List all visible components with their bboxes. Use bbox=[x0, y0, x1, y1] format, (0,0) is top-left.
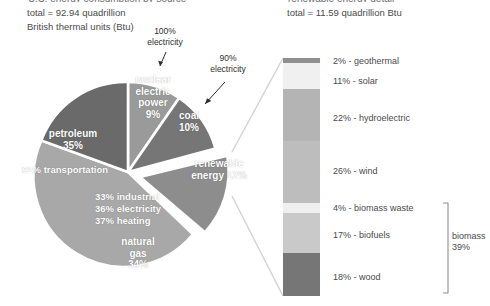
nuclear-callout-line1: 100% bbox=[133, 26, 197, 37]
pie-label-petroleum-l1: petroleum bbox=[28, 128, 118, 140]
bar-label-wind: 26% - wind bbox=[333, 166, 378, 177]
pie-label-natural-gas: natural gas 34% bbox=[104, 236, 172, 271]
pie-label-petroleum-l2: 35% bbox=[28, 140, 118, 152]
pie-label-coal-l1: coal bbox=[165, 110, 213, 122]
nuclear-callout-line2: electricity bbox=[133, 37, 197, 48]
bar-label-biofuels: 17% - biofuels bbox=[333, 230, 390, 241]
pie-label-nuclear-l3: power bbox=[122, 97, 184, 109]
bar-label-hydroelectric: 22% - hydroelectric bbox=[333, 113, 410, 124]
bar-label-solar: 11% - solar bbox=[333, 76, 378, 87]
bar-segment-solar[interactable] bbox=[283, 63, 320, 89]
coal-callout-line1: 90% bbox=[196, 53, 260, 64]
pie-label-gas-l1: natural bbox=[104, 236, 172, 248]
bar-segment-wood[interactable] bbox=[283, 253, 320, 296]
gas-subnote-l1: 33% industrial bbox=[95, 191, 161, 203]
connector-line-bottom bbox=[232, 196, 283, 296]
gas-subnote-l3: 37% heating bbox=[95, 215, 161, 227]
chart-figure: U.S. energy consumption by source renewa… bbox=[0, 0, 490, 306]
bar-segment-biofuels[interactable] bbox=[283, 213, 320, 253]
pie-label-nuclear-l1: nuclear bbox=[122, 74, 184, 86]
gas-subnote-l2: 36% electricity bbox=[95, 203, 161, 215]
nuclear-callout-label: 100% electricity bbox=[133, 26, 197, 47]
pie-label-renewable-l1: renewable bbox=[177, 158, 261, 170]
biomass-bracket-l2: 39% bbox=[452, 242, 486, 253]
biomass-bracket bbox=[443, 203, 448, 293]
bar-segment-wind[interactable] bbox=[283, 141, 320, 203]
bar-segment-biomass-waste[interactable] bbox=[283, 203, 320, 213]
pie-label-gas-l2: gas bbox=[104, 248, 172, 260]
coal-callout-arrow bbox=[205, 82, 225, 104]
pie-label-renewable-l2: energy 12% bbox=[177, 170, 261, 182]
coal-callout-label: 90% electricity bbox=[196, 53, 260, 74]
nuclear-callout-arrow bbox=[158, 52, 166, 66]
pie-label-renewable: renewable energy 12% bbox=[177, 158, 261, 181]
pie-label-coal: coal 10% bbox=[165, 110, 213, 133]
bar-label-biomass-waste: 4% - biomass waste bbox=[333, 203, 414, 214]
pie-label-petroleum: petroleum 35% bbox=[28, 128, 118, 151]
chart-canvas bbox=[0, 0, 490, 306]
pie-label-nuclear-l2: electric bbox=[122, 86, 184, 98]
pie-label-gas-l3: 34% bbox=[104, 259, 172, 271]
coal-callout-line2: electricity bbox=[196, 64, 260, 75]
gas-subnote: 33% industrial 36% electricity 37% heati… bbox=[95, 191, 161, 227]
pie-label-coal-l2: 10% bbox=[165, 122, 213, 134]
renewable-stacked-bar bbox=[283, 58, 320, 296]
bar-label-geothermal: 2% - geothermal bbox=[333, 56, 399, 67]
biomass-bracket-l1: biomass bbox=[452, 231, 486, 242]
bar-segment-hydroelectric[interactable] bbox=[283, 89, 320, 141]
petroleum-subnote: 91% transportation bbox=[22, 164, 108, 176]
biomass-bracket-label: biomass 39% bbox=[452, 231, 486, 253]
bar-label-wood: 18% - wood bbox=[333, 272, 381, 283]
